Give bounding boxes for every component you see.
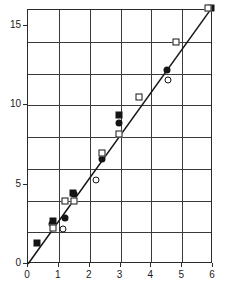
data-point-open-circle (92, 176, 99, 183)
gridline-horizontal (28, 105, 211, 106)
data-point-open-square (136, 94, 143, 101)
data-point-open-circle (60, 226, 67, 233)
data-point-filled-square (115, 111, 122, 118)
data-point-open-square (205, 4, 212, 11)
data-point-open-square (115, 130, 122, 137)
gridline-vertical (90, 10, 91, 262)
gridline-horizontal (28, 232, 211, 233)
data-point-open-square (71, 197, 78, 204)
data-point-filled-circle (115, 119, 122, 126)
data-point-filled-circle (163, 67, 170, 74)
y-tick-label: 10 (10, 99, 21, 109)
x-tick-label: 0 (24, 270, 30, 280)
plot-area (27, 9, 212, 263)
x-tick-label: 5 (178, 270, 184, 280)
gridline-vertical (151, 10, 152, 262)
gridline-horizontal (28, 42, 211, 43)
x-tick-mark (58, 263, 59, 267)
data-point-open-square (62, 197, 69, 204)
x-tick-mark (120, 263, 121, 267)
data-point-open-square (173, 38, 180, 45)
data-point-filled-square (34, 240, 41, 247)
gridline-vertical (59, 10, 60, 262)
gridline-vertical (182, 10, 183, 262)
data-point-open-circle (165, 76, 172, 83)
x-tick-mark (181, 263, 182, 267)
gridline-horizontal (28, 169, 211, 170)
gridline-horizontal (28, 74, 211, 75)
y-tick-label: 15 (10, 20, 21, 30)
data-point-filled-circle (62, 214, 69, 221)
x-tick-label: 6 (209, 270, 215, 280)
y-tick-label: 5 (15, 179, 21, 189)
x-tick-mark (212, 263, 213, 267)
chart-figure: Induced point mutations (%) Dose (kR) 05… (0, 0, 226, 290)
x-tick-mark (150, 263, 151, 267)
gridline-horizontal (28, 201, 211, 202)
data-point-open-square (49, 225, 56, 232)
x-tick-mark (27, 263, 28, 267)
data-point-open-square (99, 149, 106, 156)
x-tick-mark (89, 263, 90, 267)
data-point-filled-circle (99, 156, 106, 163)
y-tick-label: 0 (15, 258, 21, 268)
x-tick-label: 1 (55, 270, 61, 280)
x-tick-label: 4 (148, 270, 154, 280)
x-tick-label: 3 (117, 270, 123, 280)
x-tick-label: 2 (86, 270, 92, 280)
